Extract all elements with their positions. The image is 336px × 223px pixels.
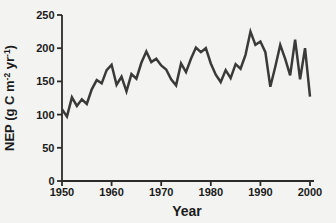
y-tick-label: 250 <box>36 9 54 21</box>
x-tick-label: 1960 <box>99 186 123 198</box>
x-tick-label: 1990 <box>248 186 272 198</box>
y-axis-title-text: NEP (g C m <box>2 80 17 151</box>
y-axis-title-text: yr <box>2 57 17 73</box>
x-tick-label: 1970 <box>149 186 173 198</box>
x-tick-label: 2000 <box>298 186 322 198</box>
nep-line-chart: 050100150200250195019601970198019902000N… <box>0 0 336 223</box>
x-axis-title: Year <box>172 203 202 219</box>
y-tick-label: 100 <box>36 109 54 121</box>
nep-figure: 050100150200250195019601970198019902000N… <box>0 0 336 223</box>
y-axis-title-text: ) <box>2 45 17 49</box>
y-tick-label: 50 <box>42 142 54 154</box>
y-axis-title: NEP (g C m-2 yr-1) <box>2 45 18 151</box>
x-tick-label: 1980 <box>199 186 223 198</box>
x-tick-label: 1950 <box>50 186 74 198</box>
y-tick-label: 150 <box>36 75 54 87</box>
y-tick-label: 200 <box>36 42 54 54</box>
nep-series-line <box>62 32 310 117</box>
